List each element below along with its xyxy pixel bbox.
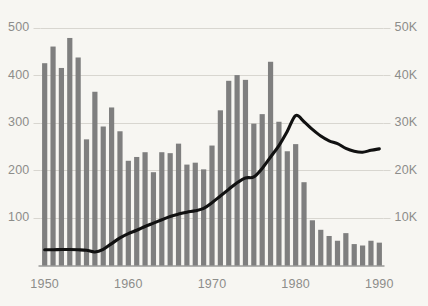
bar — [67, 38, 72, 266]
bar — [218, 110, 223, 265]
bar — [142, 152, 147, 265]
y-axis-left-tick-label: 500 — [0, 21, 30, 34]
bar — [368, 241, 373, 266]
bar — [260, 114, 265, 265]
bar — [59, 68, 64, 266]
bar — [310, 220, 315, 265]
x-axis-tick-label: 1980 — [271, 278, 321, 291]
bar — [226, 81, 231, 266]
bar — [151, 172, 156, 265]
bar — [243, 80, 248, 266]
bar — [176, 144, 181, 266]
bar — [42, 63, 47, 265]
bar — [343, 233, 348, 265]
y-axis-right-tick-label: 30K — [395, 116, 418, 129]
bar — [50, 47, 55, 266]
bar — [101, 127, 106, 266]
x-axis-tick-label: 1990 — [354, 278, 404, 291]
y-axis-left-tick-label: 200 — [0, 164, 30, 177]
bar — [92, 92, 97, 266]
bar — [193, 163, 198, 266]
bar — [117, 131, 122, 265]
bar — [301, 182, 306, 265]
bar-group — [42, 38, 382, 266]
y-axis-left-tick-label: 400 — [0, 69, 30, 82]
bar — [184, 165, 189, 266]
bar — [235, 75, 240, 265]
y-axis-right-tick-label: 10K — [395, 211, 418, 224]
x-axis-tick-label: 1960 — [103, 278, 153, 291]
bar — [126, 161, 131, 266]
bar — [268, 62, 273, 266]
y-axis-right-tick-label: 50K — [395, 21, 418, 34]
bar — [293, 144, 298, 265]
y-axis-left-tick-label: 100 — [0, 211, 30, 224]
bar — [159, 152, 164, 265]
bar — [377, 243, 382, 266]
x-axis-tick-label: 1970 — [187, 278, 237, 291]
bar — [201, 169, 206, 265]
bar — [335, 241, 340, 266]
bar — [251, 124, 256, 266]
bar — [168, 153, 173, 265]
y-axis-right-tick-label: 40K — [395, 69, 418, 82]
bar — [285, 151, 290, 265]
chart-plot-svg — [0, 0, 428, 306]
y-axis-right-tick-label: 20K — [395, 164, 418, 177]
bar — [352, 244, 357, 265]
y-axis-left-tick-label: 300 — [0, 116, 30, 129]
bar — [84, 139, 89, 265]
chart-container: 10020030040050010K20K30K40K50K1950196019… — [0, 0, 428, 306]
bar — [360, 246, 365, 266]
bar — [76, 57, 81, 265]
x-axis-tick-label: 1950 — [20, 278, 70, 291]
bar — [134, 157, 139, 266]
bar — [327, 236, 332, 266]
bar — [318, 230, 323, 266]
